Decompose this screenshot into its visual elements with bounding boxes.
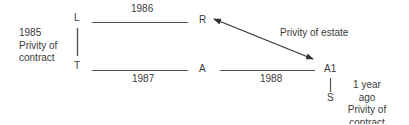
note-left: 1985 Privity of contract bbox=[19, 27, 57, 65]
note-left-line3: contract bbox=[19, 52, 57, 65]
edge-label-1988: 1988 bbox=[260, 73, 282, 85]
note-right-line3: contract bbox=[344, 117, 390, 125]
node-r: R bbox=[199, 14, 206, 26]
note-right-time: 1 year ago bbox=[344, 79, 390, 104]
edge-label-privity-of-estate: Privity of estate bbox=[280, 27, 348, 39]
edge-label-1986: 1986 bbox=[131, 3, 153, 15]
edge-r-a1-double-arrow bbox=[214, 19, 313, 59]
node-a1: A1 bbox=[324, 63, 336, 75]
node-a: A bbox=[199, 63, 206, 75]
edge-label-1987: 1987 bbox=[132, 73, 154, 85]
note-right: 1 year ago Privity of contract bbox=[344, 79, 390, 124]
node-s: S bbox=[327, 92, 334, 104]
node-l: L bbox=[74, 12, 80, 24]
note-right-line2: Privity of bbox=[344, 104, 390, 117]
note-left-line2: Privity of bbox=[19, 40, 57, 53]
node-t: T bbox=[74, 60, 80, 72]
note-left-year: 1985 bbox=[19, 27, 57, 40]
